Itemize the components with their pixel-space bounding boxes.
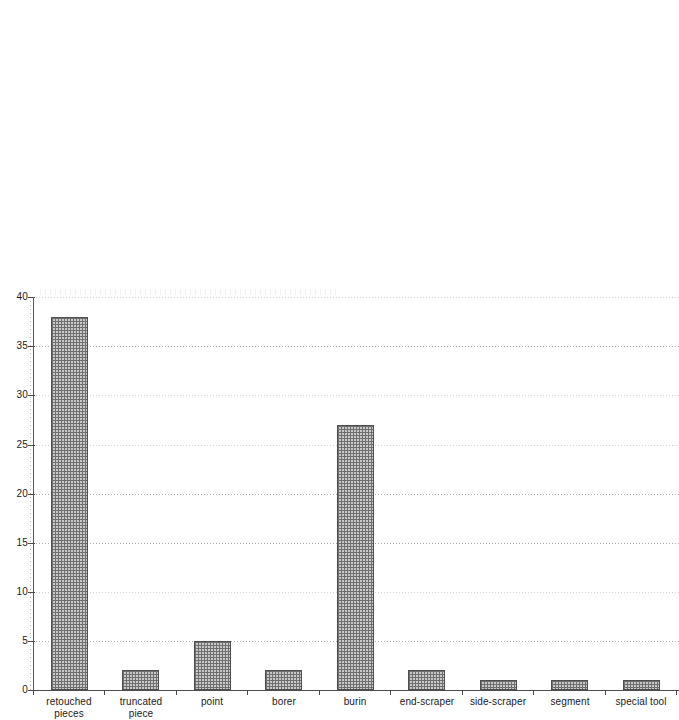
y-tick-label: 15 [4,538,28,548]
y-tick-label: 10 [4,587,28,597]
y-tick-label: 20 [4,489,28,499]
bar-chart: 0 5 10 15 20 25 30 35 40 retouched piece… [0,286,679,404]
y-tick-mark [28,346,35,347]
x-tick-mark [104,690,105,695]
x-tick-mark [605,690,606,695]
y-tick-label: 35 [4,341,28,351]
y-tick-mark [28,592,35,593]
y-tick-mark [28,543,35,544]
x-tick-mark [319,690,320,695]
x-category-label-line1: retouched [46,696,91,707]
y-tick-label: 30 [4,390,28,400]
y-tick-label: 40 [4,292,28,302]
y-tick-mark [28,641,35,642]
x-tick-mark [462,690,463,695]
bar-point [194,641,231,690]
gridline-30 [33,395,679,396]
x-category-label-special-tool: special tool [593,696,679,708]
x-tick-mark [33,690,34,695]
x-tick-mark [533,690,534,695]
x-category-label-line1: borer [272,696,296,707]
y-tick-mark [28,395,35,396]
x-category-label-line1: point [201,696,223,707]
y-tick-label: 25 [4,440,28,450]
x-category-label-line2: piece [93,708,189,720]
x-category-label-line1: end-scraper [400,696,454,707]
bar-special-tool [623,680,660,690]
y-tick-label: 0 [4,685,28,695]
bar-truncated-piece [122,670,159,690]
bar-retouched-pieces [51,317,88,690]
x-category-label-line1: special tool [615,696,666,707]
y-tick-mark [28,297,35,298]
y-tick-mark [28,445,35,446]
x-tick-mark [390,690,391,695]
x-tick-mark [247,690,248,695]
x-category-label-line1: side-scraper [470,696,526,707]
bar-segment [551,680,588,690]
gridline-35 [33,346,679,347]
scan-artifact [40,289,340,295]
x-tick-mark [176,690,177,695]
y-tick-mark [28,494,35,495]
bar-borer [265,670,302,690]
x-category-label-line1: burin [344,696,367,707]
bar-side-scraper [480,680,517,690]
x-category-label-line1: truncated [120,696,163,707]
y-tick-label: 5 [4,636,28,646]
gridline-40 [33,297,679,298]
x-category-label-line1: segment [550,696,589,707]
x-tick-mark [676,690,677,695]
bar-burin [337,425,374,690]
bar-end-scraper [408,670,445,690]
x-axis-line [33,690,679,691]
